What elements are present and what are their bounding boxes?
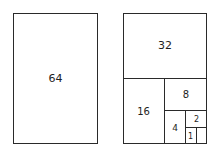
label-4: 4 xyxy=(165,111,185,144)
label-2: 2 xyxy=(186,111,207,127)
label-1: 1 xyxy=(185,128,196,144)
label-64: 64 xyxy=(13,13,98,144)
label-16: 16 xyxy=(123,79,164,144)
label-32: 32 xyxy=(123,13,207,78)
divider-1 xyxy=(196,127,197,144)
label-8: 8 xyxy=(165,79,207,110)
